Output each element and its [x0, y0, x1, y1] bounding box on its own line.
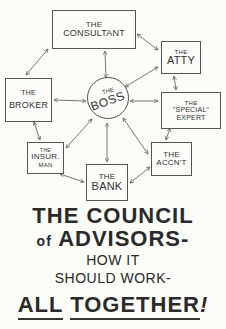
node-label: MAN: [38, 162, 52, 168]
caption-all: ALL: [18, 292, 63, 320]
caption-of: of: [37, 233, 52, 249]
node-label: BANK: [92, 181, 123, 193]
advisor-diagram: THE CONSULTANT THE ATTY THE BROKER THE B…: [0, 0, 226, 200]
caption-line-advisors: of ADVISORS-: [0, 226, 226, 252]
node-label: INSUR.: [31, 153, 59, 161]
node-accountant: THE ACCN'T: [151, 142, 192, 176]
caption-together: TOGETHER: [70, 292, 200, 320]
caption-exclamation: !: [200, 292, 208, 317]
node-label: BOSS: [89, 88, 127, 113]
node-broker: THE BROKER: [5, 78, 52, 122]
node-label: BROKER: [9, 101, 48, 110]
node-special-expert: THE "SPECIAL" EXPERT: [161, 92, 221, 129]
caption-line-all-together: ALL TOGETHER!: [0, 292, 226, 318]
node-bank: THE BANK: [86, 164, 128, 201]
node-atty: THE ATTY: [161, 41, 201, 74]
node-insurance-man: THE INSUR. MAN: [27, 142, 64, 174]
node-boss: THE BOSS: [87, 77, 129, 119]
node-label: CONSULTANT: [63, 29, 125, 38]
caption-line-should-work: SHOULD WORK-: [0, 270, 226, 286]
node-label: THE: [21, 89, 36, 96]
node-label: EXPERT: [176, 114, 205, 121]
node-label: ACCN'T: [156, 159, 186, 167]
node-label: "SPECIAL": [173, 106, 209, 113]
node-label: ATTY: [167, 55, 195, 67]
caption-advisors: ADVISORS-: [58, 226, 189, 251]
node-consultant: THE CONSULTANT: [52, 10, 136, 49]
caption-line-how-it: HOW IT: [0, 252, 226, 268]
